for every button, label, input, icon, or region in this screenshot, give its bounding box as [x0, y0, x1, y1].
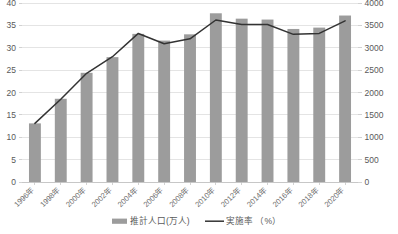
- combo-chart: 0510152025303540 05001000150020002500300…: [0, 0, 398, 234]
- bar: [287, 29, 299, 182]
- bar: [313, 28, 325, 182]
- right-axis-tick-label: 3000: [365, 43, 384, 53]
- bar: [339, 16, 351, 182]
- bar: [81, 73, 93, 182]
- legend-item-label-population: 推計人口(万人): [130, 215, 190, 226]
- legend-item-label-rate: 実施率 （%）: [226, 215, 281, 226]
- bar: [107, 57, 119, 182]
- left-axis-tick-label: 25: [7, 65, 17, 75]
- right-axis-tick-label: 1500: [365, 110, 384, 120]
- right-axis-tick-label: 1000: [365, 132, 384, 142]
- left-axis-tick-label: 30: [7, 43, 17, 53]
- legend-bar-swatch: [112, 219, 127, 224]
- right-axis-tick-label: 500: [365, 155, 379, 165]
- bar: [184, 34, 196, 182]
- bar: [210, 13, 222, 182]
- left-axis-tick-label: 5: [11, 155, 16, 165]
- left-axis-tick-label: 10: [7, 132, 17, 142]
- right-axis-tick-label: 2500: [365, 65, 384, 75]
- left-axis-tick-label: 20: [7, 88, 17, 98]
- right-axis-tick-label: 0: [365, 177, 370, 187]
- bar: [262, 20, 274, 182]
- chart-canvas: 0510152025303540 05001000150020002500300…: [0, 0, 398, 234]
- bar: [132, 34, 144, 182]
- left-axis-tick-label: 35: [7, 20, 17, 30]
- right-axis-tick-label: 4000: [365, 0, 384, 8]
- bar: [29, 123, 41, 182]
- bar: [158, 41, 170, 182]
- left-axis-tick-label: 15: [7, 110, 17, 120]
- bar: [55, 99, 67, 182]
- bar: [236, 19, 248, 182]
- left-axis-tick-label: 0: [11, 177, 16, 187]
- left-axis-tick-label: 40: [7, 0, 17, 8]
- right-axis-tick-label: 3500: [365, 20, 384, 30]
- right-axis-tick-label: 2000: [365, 88, 384, 98]
